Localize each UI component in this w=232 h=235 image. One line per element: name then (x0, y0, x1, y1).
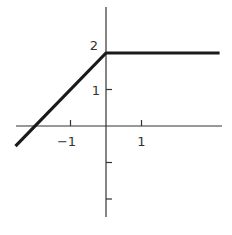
x-tick-label: −1 (57, 134, 76, 149)
y-tick-label: 2 (90, 38, 98, 53)
y-tick-label: 1 (92, 83, 100, 98)
piecewise-function-chart: −1112 (0, 0, 232, 235)
x-tick-label: 1 (137, 134, 145, 149)
function-line (16, 53, 220, 146)
tick-labels: −1112 (57, 38, 146, 149)
